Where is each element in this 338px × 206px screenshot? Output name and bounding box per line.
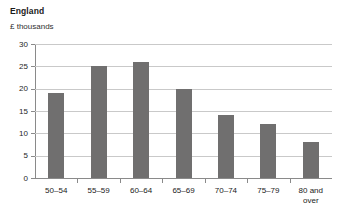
y-axis-tick-label: 5 xyxy=(2,151,28,160)
x-tick-mark xyxy=(162,179,163,183)
y-axis-tick-label: 20 xyxy=(2,84,28,93)
y-tick-mark xyxy=(31,156,35,157)
bar xyxy=(176,89,192,178)
x-axis-baseline xyxy=(35,178,332,179)
y-axis-tick-label: 25 xyxy=(2,62,28,71)
bar xyxy=(48,93,64,178)
bar xyxy=(133,62,149,178)
y-tick-mark xyxy=(31,44,35,45)
gridline xyxy=(35,44,332,45)
y-tick-mark xyxy=(31,111,35,112)
x-axis-category-label: 80 andover xyxy=(284,186,338,205)
x-tick-mark xyxy=(290,179,291,183)
x-axis-category-label-line: 80 and xyxy=(284,186,338,196)
x-axis-category-label-line: over xyxy=(284,196,338,206)
y-tick-mark xyxy=(31,178,35,179)
bar xyxy=(218,115,234,178)
x-tick-mark xyxy=(205,179,206,183)
gridline xyxy=(35,66,332,67)
y-tick-mark xyxy=(31,89,35,90)
plot-area: 05101520253050–5455–5960–6465–6970–7475–… xyxy=(0,0,338,205)
y-tick-mark xyxy=(31,133,35,134)
x-tick-mark xyxy=(77,179,78,183)
y-axis-tick-label: 15 xyxy=(2,107,28,116)
bar xyxy=(260,124,276,178)
bar xyxy=(91,66,107,178)
bar xyxy=(303,142,319,178)
y-axis-tick-label: 0 xyxy=(2,174,28,183)
y-axis-tick-label: 30 xyxy=(2,40,28,49)
x-tick-mark xyxy=(247,179,248,183)
y-axis-tick-label: 10 xyxy=(2,129,28,138)
chart-container: England £ thousands 05101520253050–5455–… xyxy=(0,0,338,205)
x-tick-mark xyxy=(120,179,121,183)
y-tick-mark xyxy=(31,66,35,67)
